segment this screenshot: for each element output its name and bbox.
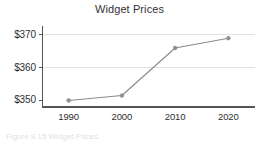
- x-tick-label: 2000: [98, 111, 146, 122]
- x-tick-label: 2020: [204, 111, 252, 122]
- data-line-group: [69, 38, 229, 100]
- data-marker-group: [67, 36, 231, 102]
- y-tick-label: $370: [0, 29, 36, 40]
- figure-caption: Figure 8.15 Widget Prices: [6, 131, 206, 142]
- chart-figure: Widget Prices $350$360$370 1990200020102…: [0, 0, 259, 143]
- x-tick-label: 1990: [45, 111, 93, 122]
- y-tick-label: $360: [0, 62, 36, 73]
- data-point-marker: [173, 46, 177, 50]
- data-line: [69, 38, 229, 100]
- gridlines-group: [42, 35, 255, 68]
- data-point-marker: [226, 36, 230, 40]
- x-tick-label: 2010: [151, 111, 199, 122]
- data-point-marker: [67, 99, 71, 103]
- data-point-marker: [120, 94, 124, 98]
- axis-lines-group: [39, 26, 255, 107]
- y-tick-label: $350: [0, 94, 36, 105]
